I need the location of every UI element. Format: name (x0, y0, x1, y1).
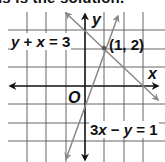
intersection-point (102, 46, 106, 50)
intersection-label: (1, 2) (109, 36, 144, 53)
line-y-plus-x-eq-3 (66, 13, 158, 100)
equation-label-2: 3x − y = 1 (89, 121, 159, 138)
eq2-rhs: = 1 (132, 121, 157, 138)
equation-label-1: y + x = 3 (10, 33, 71, 50)
eq2-minus: − (107, 121, 124, 138)
origin-label: O (68, 89, 80, 107)
eq1-rhs: = 3 (45, 33, 70, 50)
eq2-x: x (98, 121, 106, 138)
x-axis-label: x (148, 65, 157, 83)
y-axis-label: y (92, 11, 101, 29)
eq2-y: y (124, 121, 132, 138)
eq1-plus: + (19, 33, 36, 50)
eq1-x: x (36, 33, 44, 50)
